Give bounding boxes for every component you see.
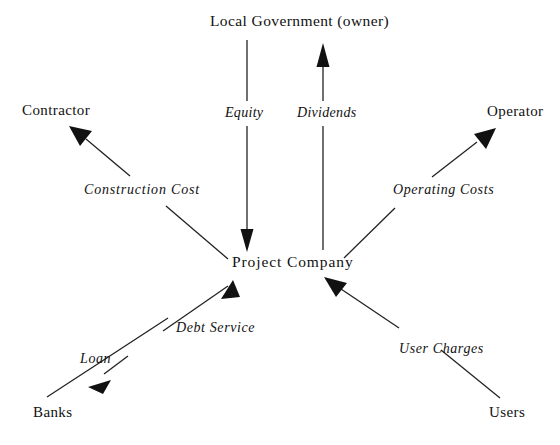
node-contractor: Contractor: [22, 102, 90, 119]
edge-label-loan: Loan: [80, 351, 111, 367]
node-local-government: Local Government (owner): [210, 12, 389, 29]
edge-equity-arrow: [241, 40, 254, 252]
edge-label-equity: Equity: [225, 105, 263, 121]
edge-loan-arrow: [88, 286, 228, 394]
edge-label-operating-costs: Operating Costs: [393, 182, 494, 198]
edge-debt-service-arrow: [47, 280, 255, 397]
edge-label-dividends: Dividends: [297, 105, 356, 121]
node-banks: Banks: [33, 404, 73, 421]
edge-label-user-charges: User Charges: [399, 341, 484, 357]
node-project-company: Project Company: [232, 253, 354, 270]
flow-arrows-layer: [0, 0, 560, 445]
node-operator: Operator: [487, 103, 544, 120]
edge-dividends-arrow: [317, 43, 330, 250]
edge-label-debt-service: Debt Service: [176, 320, 255, 336]
node-users: Users: [489, 404, 525, 421]
edge-label-construction-cost: Construction Cost: [84, 182, 200, 198]
edge-user-charges-arrow: [324, 277, 500, 398]
diagram-canvas: Local Government (owner) Contractor Oper…: [0, 0, 560, 445]
